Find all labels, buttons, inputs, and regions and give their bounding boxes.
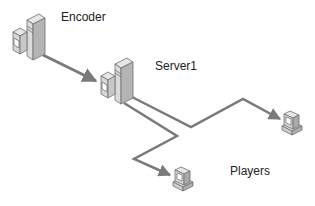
player1-pc-icon xyxy=(282,111,302,135)
server1-label: Server1 xyxy=(155,60,197,72)
encoder-icon xyxy=(13,14,45,60)
players-label: Players xyxy=(230,165,270,177)
encoder-label: Encoder xyxy=(61,11,106,23)
edge-encoder-to-server1 xyxy=(43,55,96,81)
streaming-diagram: Encoder Server1 Players xyxy=(0,0,315,206)
server1-icon xyxy=(101,58,133,104)
player2-pc-icon xyxy=(173,167,193,191)
edge-server1-to-player1 xyxy=(130,96,280,127)
edge-server1-to-player2 xyxy=(124,103,177,175)
